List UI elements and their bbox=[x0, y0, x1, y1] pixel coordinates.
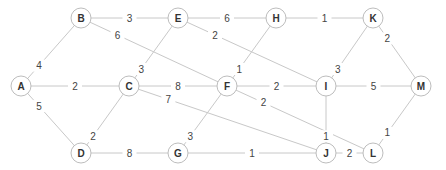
edge-C-E bbox=[129, 18, 178, 86]
edge-weight-A-D: 5 bbox=[36, 101, 42, 112]
node-B: B bbox=[71, 8, 91, 28]
node-label: M bbox=[417, 81, 425, 92]
node-label: J bbox=[323, 148, 329, 159]
edge-weight-H-F: 1 bbox=[236, 64, 242, 75]
node-label: G bbox=[174, 148, 182, 159]
node-label: E bbox=[175, 13, 182, 24]
edge-A-D bbox=[21, 86, 81, 153]
node-label: D bbox=[77, 148, 84, 159]
node-label: I bbox=[325, 81, 328, 92]
node-label: C bbox=[125, 81, 132, 92]
node-H: H bbox=[266, 8, 286, 28]
edge-H-F bbox=[227, 18, 276, 86]
edge-weight-E-I: 2 bbox=[212, 30, 218, 41]
node-label: L bbox=[370, 148, 376, 159]
edge-D-C bbox=[81, 86, 129, 153]
node-label: B bbox=[77, 13, 84, 24]
edge-L-M bbox=[373, 86, 421, 153]
edge-weight-C-J: 7 bbox=[166, 94, 172, 105]
node-C: C bbox=[119, 76, 139, 96]
edge-weight-B-F: 6 bbox=[115, 30, 121, 41]
edge-weight-C-E: 3 bbox=[138, 64, 144, 75]
edge-G-F bbox=[178, 86, 227, 153]
edge-A-B bbox=[21, 18, 81, 86]
node-M: M bbox=[411, 76, 431, 96]
node-label: F bbox=[224, 81, 230, 92]
edge-weight-D-C: 2 bbox=[90, 131, 96, 142]
edge-weight-H-K: 1 bbox=[322, 13, 328, 24]
node-label: K bbox=[369, 13, 377, 24]
edge-weight-G-F: 3 bbox=[187, 131, 193, 142]
edge-weight-I-M: 5 bbox=[371, 81, 377, 92]
edge-weight-A-C: 2 bbox=[72, 81, 78, 92]
edge-weight-A-B: 4 bbox=[36, 60, 42, 71]
node-K: K bbox=[363, 8, 383, 28]
node-A: A bbox=[11, 76, 31, 96]
edge-weight-F-I: 2 bbox=[274, 81, 280, 92]
weighted-graph-diagram: 425363872862112231351221 ABCDEFGHIJKLM bbox=[0, 0, 446, 170]
edge-weight-J-I: 1 bbox=[323, 131, 329, 142]
edge-weight-D-G: 8 bbox=[127, 148, 133, 159]
edge-weight-I-K: 3 bbox=[335, 64, 341, 75]
node-label: A bbox=[17, 81, 24, 92]
edge-K-M bbox=[373, 18, 421, 86]
node-L: L bbox=[363, 143, 383, 163]
edge-I-K bbox=[326, 18, 373, 86]
edge-weight-C-F: 8 bbox=[175, 81, 181, 92]
edge-weight-J-L: 2 bbox=[347, 148, 353, 159]
node-F: F bbox=[217, 76, 237, 96]
edge-weight-K-M: 2 bbox=[385, 33, 391, 44]
node-E: E bbox=[168, 8, 188, 28]
edge-weight-B-E: 3 bbox=[127, 13, 133, 24]
edge-weight-F-L: 2 bbox=[261, 97, 267, 108]
node-J: J bbox=[316, 143, 336, 163]
node-D: D bbox=[71, 143, 91, 163]
node-I: I bbox=[316, 76, 336, 96]
edge-weight-L-M: 1 bbox=[385, 127, 391, 138]
edge-weight-G-J: 1 bbox=[249, 148, 255, 159]
edge-weight-E-H: 6 bbox=[224, 13, 230, 24]
edge-F-L bbox=[227, 86, 373, 153]
node-label: H bbox=[272, 13, 279, 24]
node-G: G bbox=[168, 143, 188, 163]
